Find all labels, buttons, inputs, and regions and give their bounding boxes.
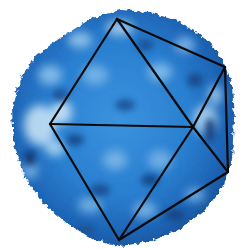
- capsid-body: [12, 10, 234, 246]
- capsid-illustration: [0, 0, 240, 249]
- virus-capsid-figure: icosahedral virus capsid surface renderi…: [0, 0, 240, 249]
